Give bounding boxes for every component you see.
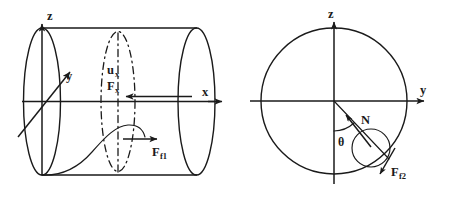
angle-theta-label: θ [338,135,344,149]
axial-force-subscript: x [115,85,120,95]
friction-force-2-main: F [391,165,399,179]
axial-velocity-subscript: x [115,69,120,79]
friction-force-2-subscript: f2 [399,171,406,181]
friction-force-1-main: F [152,145,160,159]
friction-force-1-subscript: f1 [160,151,167,161]
axial-force-label: F x [107,79,120,95]
figure-container: z x y u x F x [0,0,452,203]
y-axis-left [18,72,70,137]
axial-force-main: F [107,79,115,93]
friction-force-1-label: F f1 [152,145,167,161]
y-axis-label-left: y [66,69,73,83]
friction-force-2-label: F f2 [391,165,406,181]
axial-velocity-main: u [107,63,114,77]
z-axis-label-right: z [328,7,334,21]
particle-circle [352,129,390,167]
right-panel-cross-section-view: z y N θ F f2 [250,7,427,184]
left-panel-cylinder-side-view: z x y u x F x [18,9,222,175]
particle-trajectory-curve [42,125,145,175]
z-axis-label-left: z [47,9,53,23]
angle-theta-arc [334,123,354,131]
normal-force-label: N [361,113,370,127]
y-axis-label-right: y [420,83,427,97]
x-axis-label-left: x [202,85,209,99]
physics-diagram: z x y u x F x [0,0,452,203]
